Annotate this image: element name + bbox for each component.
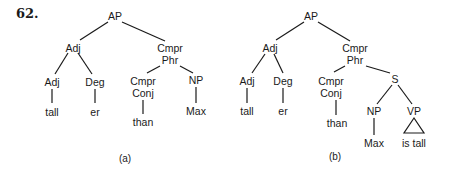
node-cmpr-conj-2: Conj: [132, 87, 154, 99]
node-adj: Adj: [65, 42, 80, 54]
leaf-tall: tall: [45, 106, 58, 118]
node-adj: Adj: [239, 75, 254, 87]
caption-b: (b): [329, 151, 341, 162]
leaf-er: er: [90, 106, 99, 118]
leaf-than: than: [327, 117, 347, 129]
leaf-max: Max: [186, 105, 206, 117]
node-adj: Adj: [262, 42, 277, 54]
node-adj: Adj: [44, 76, 59, 88]
leaf-tall: tall: [240, 105, 253, 117]
node-cmpr-conj-1: Cmpr: [318, 75, 344, 87]
example-number: 62.: [16, 6, 39, 21]
leaf-max: Max: [364, 137, 384, 149]
node-s: S: [391, 73, 398, 85]
node-cmpr-phr-2: Phr: [162, 54, 178, 66]
node-cmpr-conj-1: Cmpr: [130, 75, 156, 87]
vp-triangle: [404, 118, 424, 133]
leaf-is-tall: is tall: [402, 137, 426, 149]
leaf-er: er: [278, 105, 287, 117]
node-np: NP: [189, 74, 204, 86]
node-ap: AP: [304, 10, 318, 22]
node-deg: Deg: [273, 75, 292, 87]
node-cmpr-phr-2: Phr: [347, 54, 363, 66]
node-deg: Deg: [85, 76, 104, 88]
node-cmpr-conj-2: Conj: [320, 87, 342, 99]
node-ap: AP: [108, 10, 122, 22]
node-cmpr-phr-1: Cmpr: [157, 42, 183, 54]
leaf-than: than: [133, 116, 153, 128]
node-vp: VP: [407, 105, 421, 117]
caption-a: (a): [119, 153, 131, 164]
node-np: NP: [367, 105, 382, 117]
node-cmpr-phr-1: Cmpr: [342, 42, 368, 54]
